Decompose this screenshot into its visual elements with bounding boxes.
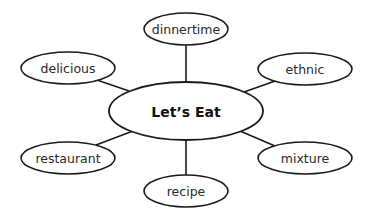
connector-ethnic: [244, 80, 278, 92]
center-label: Let’s Eat: [151, 104, 221, 120]
node-dinnertime: dinnertime: [144, 13, 228, 45]
center-node: Let’s Eat: [109, 82, 263, 140]
word-web-diagram: Let’s Eat dinnertime delicious ethnic re…: [0, 0, 372, 219]
node-label: mixture: [281, 151, 330, 166]
node-label: delicious: [41, 61, 96, 76]
connector-mixture: [240, 131, 275, 146]
node-label: restaurant: [35, 151, 100, 166]
node-ethnic: ethnic: [258, 53, 352, 85]
node-label: ethnic: [286, 62, 325, 77]
connector-restaurant: [96, 131, 133, 145]
node-mixture: mixture: [258, 142, 352, 174]
node-recipe: recipe: [144, 175, 228, 207]
node-label: recipe: [167, 184, 206, 199]
node-restaurant: restaurant: [21, 142, 115, 174]
connector-delicious: [97, 80, 129, 91]
node-label: dinnertime: [152, 22, 221, 37]
node-delicious: delicious: [21, 52, 115, 84]
